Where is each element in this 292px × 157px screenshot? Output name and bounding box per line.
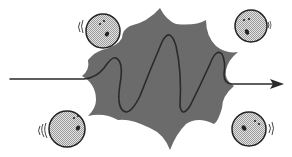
face-bottom-right [232, 112, 274, 146]
face-bottom-left [39, 111, 86, 147]
diagram-svg [0, 0, 292, 157]
diagram-canvas [0, 0, 292, 157]
face-top-right [235, 10, 271, 42]
face-top-left [79, 14, 121, 48]
